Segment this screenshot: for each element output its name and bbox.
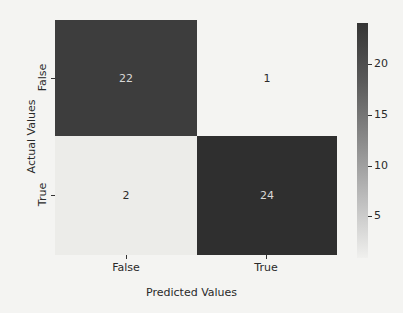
y-tick-label-true: True [36,177,49,213]
cell-value: 1 [264,72,271,85]
y-tick-mark-true [51,195,55,196]
colorbar-tick-20 [368,64,372,65]
x-tick-mark-true [266,255,267,259]
cell-actual-false-predicted-false: 22 [55,20,197,136]
cell-actual-true-predicted-false: 2 [55,136,197,255]
colorbar-tick-10 [368,166,372,167]
x-tick-label-true: True [246,261,286,274]
colorbar-label-20: 20 [374,58,388,70]
cell-value: 22 [119,72,133,85]
confusion-matrix-chart: 22 1 2 24 False True Actual Values False… [0,0,403,313]
colorbar-label-10: 10 [374,160,388,172]
cell-actual-true-predicted-true: 24 [197,136,337,255]
colorbar [357,23,368,258]
x-tick-mark-false [126,255,127,259]
colorbar-label-5: 5 [374,210,381,222]
y-axis-title: Actual Values [25,97,38,177]
cell-value: 2 [123,189,130,202]
y-tick-label-false: False [36,60,49,96]
cell-actual-false-predicted-true: 1 [197,20,337,136]
y-tick-mark-false [51,78,55,79]
colorbar-tick-5 [368,216,372,217]
colorbar-label-15: 15 [374,109,388,121]
colorbar-tick-15 [368,115,372,116]
cell-value: 24 [260,189,274,202]
x-axis-title: Predicted Values [146,286,237,299]
x-tick-label-false: False [106,261,146,274]
